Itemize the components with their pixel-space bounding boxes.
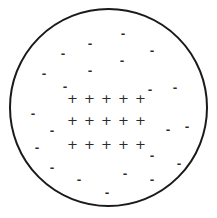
minus-charge: - [63, 81, 68, 92]
minus-charge: - [173, 82, 178, 93]
minus-charge: - [150, 150, 155, 161]
circle-boundary [9, 8, 208, 207]
plus-row-2: + + + + + [67, 114, 147, 127]
plus-row-3: + + + + + [67, 138, 147, 151]
minus-charge: - [88, 65, 93, 76]
minus-charge: - [35, 142, 40, 153]
minus-charge: - [105, 187, 110, 198]
minus-charge: - [148, 84, 153, 95]
minus-charge: - [50, 125, 55, 136]
minus-charge: - [61, 48, 66, 59]
minus-charge: - [50, 162, 55, 173]
minus-charge: - [150, 174, 155, 185]
minus-charge: - [77, 174, 82, 185]
minus-charge: - [177, 158, 182, 169]
minus-charge: - [121, 28, 126, 39]
minus-charge: - [120, 55, 125, 66]
minus-charge: - [31, 108, 36, 119]
minus-charge: - [185, 121, 190, 132]
minus-charge: - [150, 45, 155, 56]
minus-charge: - [42, 68, 47, 79]
minus-charge: - [166, 124, 171, 135]
minus-charge: - [123, 168, 128, 179]
minus-charge: - [88, 38, 93, 49]
plus-row-1: + + + + + [67, 92, 147, 105]
